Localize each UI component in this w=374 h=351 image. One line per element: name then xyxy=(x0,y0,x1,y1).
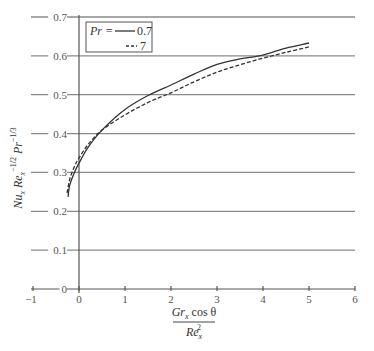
xlabel-denominator: Rex2 xyxy=(185,323,203,341)
series-pr-0-7-solid xyxy=(68,43,309,197)
x-tick-label: 4 xyxy=(260,293,266,305)
svg-text:Nux Rex−1/2 Pr−1/3: Nux Rex−1/2 Pr−1/3 xyxy=(9,127,27,209)
series-pr-7-dashed xyxy=(67,47,309,193)
y-tick-label: 0.7 xyxy=(53,11,67,23)
axes xyxy=(31,15,355,293)
legend: Pr = 0.7 7 xyxy=(86,22,152,53)
ylabel-pr: Pr xyxy=(11,142,25,157)
ylabel-re-sub: x xyxy=(18,171,27,176)
x-tick-label: −1 xyxy=(25,293,37,305)
legend-label-1: 7 xyxy=(140,39,146,53)
legend-title: Pr = xyxy=(89,24,113,38)
ylabel-pr-sup: −1/3 xyxy=(9,127,18,142)
y-tick-label: 0.6 xyxy=(53,50,67,62)
xlabel-numerator: Grx cos θ xyxy=(172,305,217,321)
y-axis-label: Nux Rex−1/2 Pr−1/3 xyxy=(9,127,27,209)
y-tick-label: 0.2 xyxy=(53,205,67,217)
y-tick-label: 0.5 xyxy=(53,89,67,101)
ylabel-re: Re xyxy=(11,175,25,191)
y-tick-label: 0.3 xyxy=(53,166,67,178)
y-tick-label: 0.4 xyxy=(53,128,67,140)
ylabel-re-sup: −1/2 xyxy=(9,157,18,172)
y-tick-label: 0.1 xyxy=(53,244,67,256)
x-tick-label: 2 xyxy=(168,293,174,305)
x-tick-label: 3 xyxy=(214,293,220,305)
y-tick-label: 0 xyxy=(62,283,68,295)
x-tick-label: 0 xyxy=(76,293,82,305)
x-axis-label: Grx cos θ Rex2 xyxy=(172,305,217,341)
data-series xyxy=(67,43,309,197)
x-tick-label: 5 xyxy=(306,293,312,305)
x-tick-label: 1 xyxy=(122,293,128,305)
x-tick-label: 6 xyxy=(352,293,358,305)
tick-labels: 00.10.20.30.40.50.60.7−10123456 xyxy=(25,11,358,305)
ylabel-nu: Nu xyxy=(11,195,25,210)
chart: 00.10.20.30.40.50.60.7−10123456 Pr = 0.7… xyxy=(0,0,374,351)
legend-label-0: 0.7 xyxy=(137,24,152,38)
